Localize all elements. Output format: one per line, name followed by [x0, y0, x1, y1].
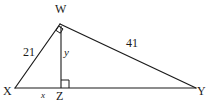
- side-length-label-wx: 21: [23, 46, 35, 58]
- vertex-label-w: W: [55, 3, 66, 15]
- segment-xw-leg: [15, 24, 60, 88]
- altitude-variable-label-y: y: [64, 47, 69, 58]
- vertex-label-x: X: [3, 85, 12, 97]
- vertex-label-z: Z: [56, 90, 63, 102]
- segment-wy-leg: [60, 24, 196, 88]
- vertex-label-y: Y: [197, 85, 206, 97]
- geometry-figure: W X Y Z 21 41 y x: [0, 0, 211, 107]
- side-length-label-wy: 41: [126, 37, 138, 49]
- segment-variable-label-x: x: [41, 91, 45, 100]
- right-angle-marker-z: [61, 80, 69, 88]
